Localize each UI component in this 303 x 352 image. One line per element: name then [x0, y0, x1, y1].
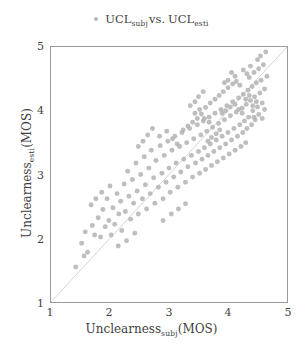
- data-point: [103, 224, 108, 229]
- data-point: [213, 111, 218, 116]
- data-point: [192, 111, 197, 116]
- data-point: [142, 154, 147, 159]
- data-point: [124, 238, 129, 243]
- data-point: [122, 182, 127, 187]
- data-point: [229, 70, 234, 75]
- data-point: [222, 80, 227, 85]
- data-point: [156, 185, 161, 190]
- data-point: [174, 161, 179, 166]
- data-point: [164, 129, 169, 134]
- data-point: [196, 149, 201, 154]
- data-point: [116, 212, 121, 217]
- data-point: [126, 194, 131, 199]
- data-point: [105, 196, 110, 201]
- data-point: [221, 155, 226, 160]
- data-point: [223, 108, 228, 113]
- data-point: [214, 131, 219, 136]
- scatter-canvas: [51, 47, 287, 302]
- data-point: [262, 87, 267, 92]
- data-point: [234, 79, 239, 84]
- data-point: [170, 136, 175, 141]
- data-point: [250, 84, 255, 89]
- x-axis-title: Unclearnesssubj(MOS): [0, 322, 303, 336]
- data-point: [203, 105, 208, 110]
- data-point: [215, 159, 220, 164]
- data-point: [231, 126, 236, 131]
- data-point: [140, 196, 145, 201]
- data-point: [183, 180, 188, 185]
- data-point: [149, 148, 154, 153]
- scatter-plot-figure: UCLsubjvs.UCLesti 5 4 3 2 1 1 2 3 4 5 Un…: [0, 0, 303, 352]
- data-point: [195, 122, 200, 127]
- data-point: [229, 138, 234, 143]
- data-point: [116, 243, 121, 248]
- data-point: [248, 98, 253, 103]
- data-point: [209, 163, 214, 168]
- data-point: [191, 136, 196, 141]
- data-point: [251, 115, 256, 120]
- data-point: [208, 101, 213, 106]
- x-tick-5: 5: [278, 306, 298, 319]
- data-point: [178, 169, 183, 174]
- data-point: [125, 169, 130, 174]
- data-point: [150, 126, 155, 131]
- data-point: [252, 94, 257, 99]
- data-point: [165, 139, 170, 144]
- data-point: [205, 139, 210, 144]
- data-point: [185, 164, 190, 169]
- data-point: [135, 189, 140, 194]
- plot-area: [50, 46, 288, 303]
- legend-subscript-esti: esti: [194, 19, 209, 28]
- data-point: [138, 172, 143, 177]
- data-point: [193, 161, 198, 166]
- data-point: [207, 115, 212, 120]
- data-point: [158, 143, 163, 148]
- data-point: [168, 190, 173, 195]
- data-point: [260, 101, 265, 106]
- data-point: [264, 74, 269, 79]
- data-point: [235, 134, 240, 139]
- x-tick-1: 1: [40, 306, 60, 319]
- data-point: [200, 157, 205, 162]
- data-point: [161, 196, 166, 201]
- data-point: [260, 116, 265, 121]
- data-point: [247, 93, 252, 98]
- data-point: [233, 148, 238, 153]
- data-points-group: [73, 50, 269, 270]
- data-point: [167, 166, 172, 171]
- data-point: [98, 234, 103, 239]
- data-point: [136, 212, 141, 217]
- data-point: [85, 250, 90, 255]
- data-point: [256, 112, 261, 117]
- data-point: [248, 64, 253, 69]
- data-point: [228, 113, 233, 118]
- data-point: [233, 74, 238, 79]
- data-point: [82, 254, 87, 259]
- data-point: [112, 222, 117, 227]
- data-point: [108, 183, 113, 188]
- data-point: [197, 171, 202, 176]
- data-point: [241, 67, 246, 72]
- data-point: [254, 80, 259, 85]
- data-point: [213, 97, 218, 102]
- data-point: [211, 149, 216, 154]
- data-point: [202, 116, 207, 121]
- data-point: [199, 111, 204, 116]
- data-point: [175, 185, 180, 190]
- data-point: [192, 99, 197, 104]
- data-point: [133, 161, 138, 166]
- data-point: [205, 153, 210, 158]
- data-point: [220, 134, 225, 139]
- data-point: [151, 175, 156, 180]
- data-point: [118, 199, 123, 204]
- data-point: [236, 107, 241, 112]
- data-point: [123, 209, 128, 214]
- data-point: [216, 121, 221, 126]
- x-axis-title-main: Unclearness: [86, 322, 162, 336]
- x-tick-2: 2: [99, 306, 119, 319]
- data-point: [244, 126, 249, 131]
- data-point: [143, 182, 148, 187]
- data-point: [201, 89, 206, 94]
- data-point: [159, 171, 164, 176]
- data-point: [226, 85, 231, 90]
